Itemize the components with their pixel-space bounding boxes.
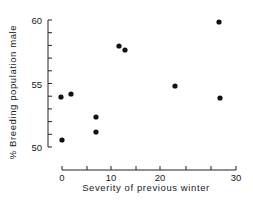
data-point [59, 137, 64, 142]
data-point [116, 43, 121, 48]
y-axis-label: % Breeding population male [7, 25, 18, 159]
x-tick-label: 30 [231, 172, 242, 183]
scatter-chart: 605550 0102030 % Breeding population mal… [0, 0, 253, 204]
data-points [58, 19, 222, 142]
y-tick-label: 55 [31, 79, 42, 90]
data-point [122, 47, 127, 52]
data-point [93, 129, 98, 134]
x-axis: 0102030 [59, 166, 241, 183]
data-point [172, 83, 177, 88]
y-axis: 605550 [31, 15, 52, 153]
data-point [93, 114, 98, 119]
data-point [68, 91, 73, 96]
y-tick-label: 60 [31, 15, 42, 26]
x-tick-label: 0 [59, 172, 64, 183]
y-tick-label: 50 [31, 142, 42, 153]
data-point [217, 95, 222, 100]
x-axis-label: Severity of previous winter [82, 182, 210, 193]
data-point [58, 94, 63, 99]
data-point [216, 19, 221, 24]
